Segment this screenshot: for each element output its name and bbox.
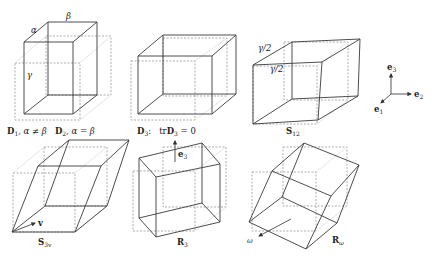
caption-r3: R3 — [177, 238, 188, 248]
edge-label-beta: β — [66, 12, 71, 21]
axis-subscript: 3 — [392, 66, 396, 73]
coordinate-axes — [381, 74, 411, 103]
axis-label-e1: e1 — [374, 105, 383, 115]
vector-label-omega: ω — [247, 238, 253, 245]
axis-subscript: 1 — [379, 108, 383, 115]
caption-condition: , α = β — [66, 126, 95, 136]
cube-d3 — [131, 35, 236, 120]
edge-label-gamma-half-side: γ/2 — [270, 65, 283, 74]
vector-label-v: v — [38, 219, 43, 228]
caption-subscript: 12 — [292, 130, 300, 137]
caption-s3v: S3v — [38, 238, 51, 248]
caption-r-omega: Rω — [332, 236, 344, 246]
caption-colon: : — [148, 126, 151, 136]
vector-label-e3: e3 — [178, 150, 187, 160]
caption-d-symbol: D — [167, 126, 174, 136]
caption-condition: = 0 — [178, 126, 196, 136]
caption-d1-d2: D1, α ≠ β D2, α = β — [7, 127, 95, 137]
axis-subscript: 2 — [419, 93, 423, 100]
vector-subscript: 3 — [183, 153, 187, 160]
edge-label-gamma-half-top: γ/2 — [258, 44, 271, 53]
edge-label-alpha: α — [31, 26, 37, 35]
caption-trace: tr — [159, 126, 166, 136]
axis-label-e2: e2 — [414, 90, 423, 100]
cube-s3v — [12, 140, 129, 232]
cube-r-omega — [249, 143, 359, 249]
caption-d3: D3: trD3 = 0 — [137, 127, 196, 137]
edge-label-gamma: γ — [27, 71, 32, 80]
caption-subscript: 3 — [184, 241, 188, 248]
caption-s12: S12 — [286, 127, 300, 137]
axis-label-e3: e3 — [387, 63, 396, 73]
caption-condition: , α ≠ β — [18, 126, 47, 136]
caption-subscript: 3v — [44, 241, 51, 248]
caption-subscript: ω — [339, 239, 344, 246]
